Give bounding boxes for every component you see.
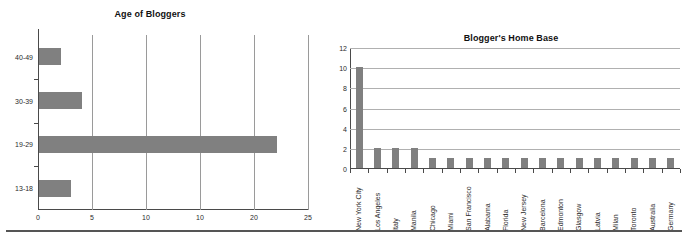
left-chart-bar [39, 48, 61, 65]
right-chart-gridline [350, 68, 680, 69]
right-chart-x-tick [497, 169, 498, 173]
right-chart-title-wrap: Blogger's Home Base [346, 33, 676, 43]
left-chart-x-tick-label: 0 [36, 214, 40, 221]
right-chart-bar [447, 158, 454, 168]
right-chart-plot-area: 024681012 New York CityLos AngelesItalyM… [350, 48, 680, 169]
footer-divider [6, 230, 682, 232]
left-chart-title: Age of Bloggers [0, 9, 300, 19]
right-chart-bar-fill [557, 158, 564, 168]
right-chart-y-tick-label: 2 [343, 145, 347, 152]
right-chart-bar [374, 148, 381, 168]
left-chart-x-tick-label: 5 [90, 214, 94, 221]
left-chart-bar [39, 136, 277, 153]
right-chart-bar-fill [484, 158, 491, 168]
left-chart-x-tick-label: 20 [250, 214, 258, 221]
right-chart-x-tick [478, 169, 479, 173]
left-chart-y-tick [34, 79, 38, 80]
right-chart-category-label: San Francisco [465, 186, 472, 231]
right-chart-category-label: Alabama [484, 203, 491, 231]
right-chart-bar [667, 158, 674, 168]
right-chart-category-label: Manila [410, 210, 417, 231]
right-chart-category-label: New York City [355, 187, 362, 231]
right-chart-gridline [350, 109, 680, 110]
right-chart-y-tick-label: 10 [339, 65, 347, 72]
footer-clipped-text [8, 237, 308, 245]
right-chart-category-label: Miami [447, 212, 454, 231]
right-chart-x-tick [460, 169, 461, 173]
right-chart-y-tick-label: 12 [339, 45, 347, 52]
right-chart-category-label: Australia [649, 204, 656, 231]
left-chart-bar [39, 180, 71, 197]
right-chart-x-tick [387, 169, 388, 173]
right-chart-x-tick [442, 169, 443, 173]
right-chart-title: Blogger's Home Base [346, 33, 676, 43]
right-chart-category-label: Chicago [429, 205, 436, 231]
right-chart-bar-fill [374, 148, 381, 168]
left-chart-gridline [146, 35, 147, 210]
left-chart-x-tick-label: 25 [304, 214, 312, 221]
right-chart-category-label: Edmonton [557, 199, 564, 231]
right-chart-category-label: Toronto [630, 208, 637, 231]
left-chart-gridline [308, 35, 309, 210]
right-chart-bar [649, 158, 656, 168]
left-chart-bar-row: 30-39 [39, 92, 82, 109]
right-chart-bar [356, 67, 363, 168]
right-chart-x-tick [643, 169, 644, 173]
right-chart-x-tick [552, 169, 553, 173]
right-chart-bar-fill [539, 158, 546, 168]
left-chart-gridline [92, 35, 93, 210]
left-chart-gridline [200, 35, 201, 210]
left-chart-category-label: 30-39 [15, 97, 33, 104]
left-chart-x-tick-label: 10 [142, 214, 150, 221]
right-chart-bar [557, 158, 564, 168]
right-chart-x-tick [533, 169, 534, 173]
right-chart-category-label: Los Angeles [374, 193, 381, 231]
right-chart-bar [612, 158, 619, 168]
right-chart-bar [631, 158, 638, 168]
right-chart-bar [484, 158, 491, 168]
left-chart-category-label: 40-49 [15, 53, 33, 60]
left-chart-gridline [254, 35, 255, 210]
right-chart-bar-fill [631, 158, 638, 168]
left-chart-x-axis [38, 209, 308, 210]
right-chart-bar-fill [502, 158, 509, 168]
right-chart-gridline [350, 129, 680, 130]
right-chart-bar-fill [466, 158, 473, 168]
right-chart-bar [539, 158, 546, 168]
right-chart-bar [411, 148, 418, 168]
right-chart-bar [521, 158, 528, 168]
right-chart-bar-fill [576, 158, 583, 168]
right-chart-y-tick-label: 6 [343, 105, 347, 112]
right-chart-x-tick [680, 169, 681, 173]
left-chart-bar [39, 92, 82, 109]
left-chart-title-wrap: Age of Bloggers [0, 9, 300, 19]
right-chart-bar [576, 158, 583, 168]
right-chart-bar [429, 158, 436, 168]
right-chart-bar-fill [521, 158, 528, 168]
right-chart-y-tick-label: 4 [343, 125, 347, 132]
left-chart-plot-area: 40-4930-3919-2913-18 0510102025 [38, 35, 308, 210]
right-chart-bar-fill [612, 158, 619, 168]
left-chart-bar-row: 40-49 [39, 48, 61, 65]
right-chart-bar [392, 148, 399, 168]
right-chart-gridline [350, 48, 680, 49]
right-chart-x-tick [625, 169, 626, 173]
left-chart-bar-row: 13-18 [39, 180, 71, 197]
left-chart-y-tick [34, 123, 38, 124]
right-chart-x-tick [607, 169, 608, 173]
right-chart-bar-fill [447, 158, 454, 168]
right-chart-x-tick [350, 169, 351, 173]
right-chart-category-label: Florida [502, 210, 509, 231]
right-chart-bar [594, 158, 601, 168]
right-chart-bar-fill [667, 158, 674, 168]
right-chart-x-tick [588, 169, 589, 173]
right-chart-bar-fill [411, 148, 418, 168]
age-of-bloggers-chart: Age of Bloggers 40-4930-3919-2913-18 051… [0, 0, 330, 225]
right-chart-bar-fill [356, 67, 363, 168]
right-chart-gridline [350, 149, 680, 150]
right-chart-category-label: Latvia [594, 212, 601, 231]
right-chart-bar [466, 158, 473, 168]
left-chart-category-label: 13-18 [15, 185, 33, 192]
right-chart-y-tick-label: 0 [343, 166, 347, 173]
right-chart-bar-fill [392, 148, 399, 168]
